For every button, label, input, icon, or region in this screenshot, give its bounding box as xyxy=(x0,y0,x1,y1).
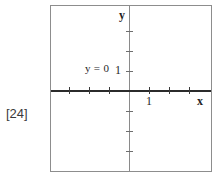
x-axis-tick xyxy=(169,87,170,94)
plot-frame: y x 1 1 y = 0 xyxy=(50,5,212,172)
y-axis-tick xyxy=(126,111,133,112)
exercise-number-label: [24] xyxy=(6,106,28,121)
axis-layer: y x 1 1 y = 0 xyxy=(51,6,211,171)
x-axis-tick xyxy=(89,87,90,94)
x-axis-name-label: x xyxy=(197,94,203,109)
y-axis-name-label: y xyxy=(119,8,125,23)
figure-screenshot: [24] y x 1 1 y = 0 xyxy=(0,0,220,184)
x-axis-tick xyxy=(149,87,150,94)
y-axis-unit-label: 1 xyxy=(115,63,121,78)
y-axis-tick xyxy=(126,31,133,32)
x-axis-tick xyxy=(189,87,190,94)
function-equation-label: y = 0 xyxy=(85,62,109,74)
y-axis-tick xyxy=(126,51,133,52)
x-axis-line xyxy=(51,90,211,92)
x-axis-unit-label: 1 xyxy=(146,94,152,109)
y-axis-tick xyxy=(126,151,133,152)
x-axis-tick xyxy=(69,87,70,94)
y-axis-tick xyxy=(126,71,133,72)
x-axis-tick xyxy=(109,87,110,94)
y-axis-tick xyxy=(126,131,133,132)
